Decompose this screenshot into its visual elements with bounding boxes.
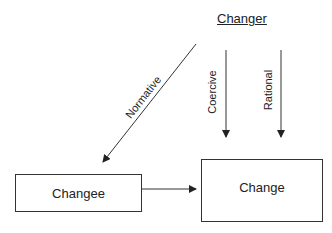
rational-label: Rational <box>262 70 274 110</box>
changee-box: Changee <box>15 174 142 212</box>
change-box: Change <box>201 159 323 222</box>
coercive-label: Coercive <box>206 70 218 113</box>
normative-arrow <box>103 44 196 162</box>
changer-label: Changer <box>217 11 267 26</box>
